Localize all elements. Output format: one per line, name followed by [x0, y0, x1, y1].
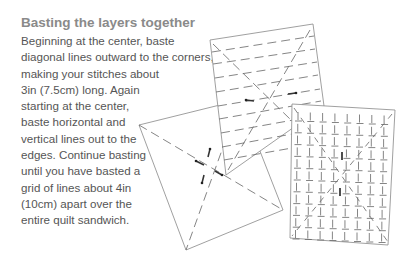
basting-illustration [0, 0, 415, 258]
grid-basting-panel [290, 104, 395, 245]
